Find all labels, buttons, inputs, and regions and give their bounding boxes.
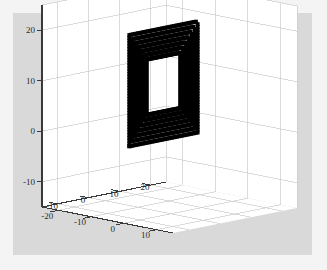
data-marker	[188, 123, 192, 127]
tick-label: 0	[111, 224, 116, 234]
data-marker	[127, 36, 131, 40]
data-marker	[191, 127, 195, 131]
tick-label: -10	[74, 217, 86, 227]
tick-label: 10	[141, 230, 151, 240]
plot-canvas[interactable]: 100-10-20-100102020100-10	[0, 0, 327, 270]
data-marker	[183, 114, 187, 118]
tick-label: 10	[26, 76, 36, 86]
tick-label: -10	[46, 201, 58, 211]
tick-label: 20	[140, 182, 150, 192]
data-marker	[194, 131, 198, 135]
matlab-figure-window: 100-10-20-100102020100-10	[0, 0, 327, 270]
data-marker	[180, 110, 184, 114]
tick-label: 10	[109, 189, 119, 199]
tick-label: -20	[41, 211, 53, 221]
data-marker	[196, 22, 200, 26]
data-marker	[178, 106, 182, 110]
tick-label: 20	[26, 25, 36, 35]
tick-label: 0	[81, 195, 86, 205]
tick-label: -10	[23, 177, 35, 187]
tick-label: 0	[31, 126, 36, 136]
data-marker	[186, 119, 190, 123]
